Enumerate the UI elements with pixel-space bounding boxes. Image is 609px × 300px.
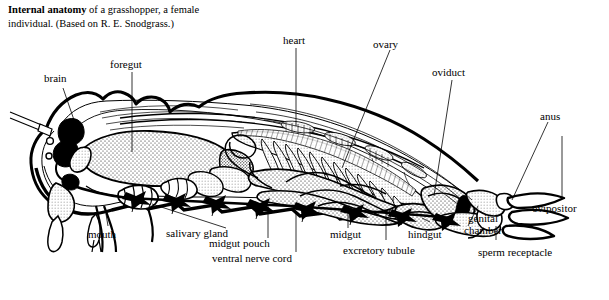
label-hindgut: hindgut: [408, 228, 442, 240]
label-anus: anus: [540, 110, 560, 122]
leader-oviduct: [434, 80, 452, 196]
label-ovary: ovary: [373, 38, 398, 50]
label-genital-chamber: genital chamber: [455, 212, 511, 236]
label-oviduct: oviduct: [432, 66, 465, 78]
label-brain: brain: [44, 72, 67, 84]
label-ventral-nerve-cord: ventral nerve cord: [212, 252, 292, 264]
label-excretory-tubule: excretory tubule: [343, 244, 415, 256]
label-heart: heart: [283, 34, 305, 46]
label-midgut: midgut: [330, 228, 361, 240]
label-sperm-receptacle: sperm receptacle: [478, 246, 552, 258]
antenna: [10, 112, 52, 136]
label-mouth: mouth: [88, 228, 116, 240]
label-ovipositor: ovipositor: [532, 202, 577, 214]
leader-anus: [512, 122, 548, 200]
figure-panel: Internal anatomy of a grasshopper, a fem…: [0, 0, 609, 300]
label-foregut: foregut: [110, 58, 142, 70]
ovipositor-organ: [503, 194, 568, 240]
label-salivary-gland: salivary gland: [166, 227, 228, 239]
